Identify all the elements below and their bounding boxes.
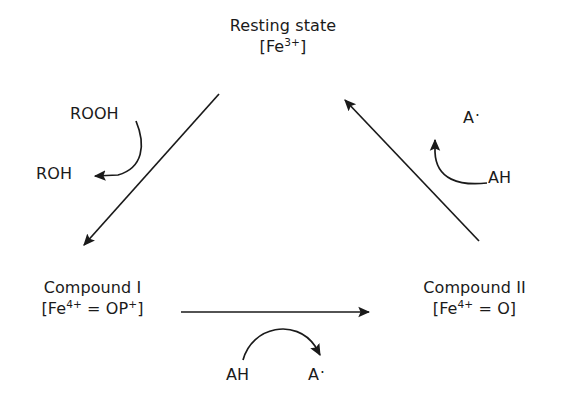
formula-suffix: = OP	[82, 299, 128, 318]
arrow-compound-ii-to-resting	[345, 100, 479, 241]
species-label-ah-right: AH	[488, 168, 511, 187]
arrow-rooh-to-roh	[95, 121, 141, 176]
species-label-a-radical-right: A·	[463, 108, 479, 127]
species-letter: A	[463, 108, 474, 127]
formula-suffix: = O]	[473, 299, 516, 318]
formula-prefix: [Fe	[260, 37, 285, 56]
node-resting-state-formula: [Fe3+]	[183, 37, 383, 58]
formula-superscript: 4+	[458, 297, 474, 309]
arrow-ah-to-a-radical-bottom	[243, 329, 320, 360]
node-resting-state-title: Resting state	[183, 16, 383, 37]
species-letter: A	[308, 365, 319, 384]
radical-dot: ·	[475, 107, 480, 125]
species-label-ah-bottom: AH	[226, 365, 249, 384]
arrow-layer	[0, 0, 567, 404]
species-label-roh: ROH	[36, 164, 72, 183]
formula-prefix: [Fe	[433, 299, 458, 318]
formula-superscript: 4+	[66, 297, 82, 309]
reaction-cycle-diagram: Resting state [Fe3+] Compound I [Fe4+ = …	[0, 0, 567, 404]
species-label-rooh: ROOH	[70, 104, 119, 123]
formula-superscript-2: +	[128, 297, 137, 309]
arrow-ah-to-a-radical-right	[435, 140, 487, 184]
node-compound-i-formula: [Fe4+ = OP+]	[10, 299, 175, 320]
node-compound-ii-title: Compound II	[392, 278, 557, 299]
formula-suffix: ]	[300, 37, 306, 56]
formula-superscript: 3+	[284, 35, 300, 47]
node-compound-ii-formula: [Fe4+ = O]	[392, 299, 557, 320]
node-compound-i: Compound I [Fe4+ = OP+]	[10, 278, 175, 320]
node-compound-ii: Compound II [Fe4+ = O]	[392, 278, 557, 320]
formula-prefix: [Fe	[41, 299, 66, 318]
radical-dot: ·	[320, 364, 325, 382]
node-compound-i-title: Compound I	[10, 278, 175, 299]
node-resting-state: Resting state [Fe3+]	[183, 16, 383, 58]
species-label-a-radical-bottom: A·	[308, 365, 324, 384]
formula-end: ]	[137, 299, 143, 318]
